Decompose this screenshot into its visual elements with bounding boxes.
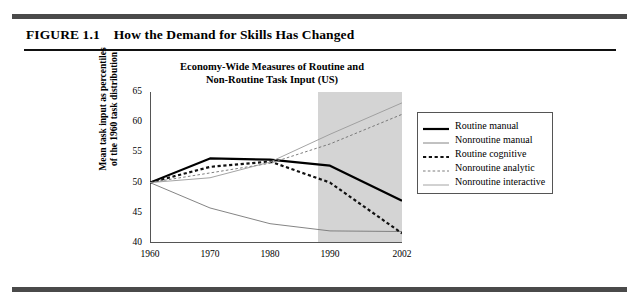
x-tick-label: 2002 [385, 249, 419, 259]
y-tick-label: 50 [118, 177, 142, 187]
legend-item: Routine manual [423, 118, 545, 132]
legend-swatch-icon [423, 176, 449, 186]
chart-title-line-2: Non-Routine Task Input (US) [122, 73, 422, 86]
legend-label: Routine manual [455, 120, 519, 131]
legend-swatch-icon [423, 148, 449, 158]
legend-swatch-icon [423, 134, 449, 144]
legend-label: Nonroutine manual [455, 134, 532, 145]
figure-header: FIGURE 1.1How the Demand for Skills Has … [26, 27, 354, 43]
y-tick-label: 45 [118, 207, 142, 217]
y-tick-label: 65 [118, 86, 142, 96]
line-chart-plot [150, 92, 402, 243]
figure-top-rule [12, 14, 627, 19]
y-tick-label: 55 [118, 146, 142, 156]
legend-label: Nonroutine interactive [455, 176, 545, 187]
chart-title-line-1: Economy-Wide Measures of Routine and [122, 60, 422, 73]
y-tick-label: 60 [118, 116, 142, 126]
chart-title: Economy-Wide Measures of Routine and Non… [122, 60, 422, 86]
y-axis-label-line-2: of the 1960 task distribution [109, 34, 120, 184]
legend-label: Routine cognitive [455, 148, 526, 159]
legend-item: Routine cognitive [423, 146, 545, 160]
y-axis-label: Mean task input as percentiles of the 19… [98, 34, 120, 184]
legend-item: Nonroutine interactive [423, 174, 545, 188]
x-tick-label: 1970 [193, 249, 227, 259]
projection-shading [318, 92, 402, 243]
legend-swatch-icon [423, 162, 449, 172]
figure-caption: How the Demand for Skills Has Changed [114, 27, 354, 42]
legend-swatch-icon [423, 120, 449, 130]
figure-container: FIGURE 1.1How the Demand for Skills Has … [12, 14, 627, 292]
legend-item: Nonroutine manual [423, 132, 545, 146]
plot-wrapper: 404550556065 19601970198019902002 [150, 92, 402, 243]
x-tick-label: 1990 [313, 249, 347, 259]
y-axis-label-line-1: Mean task input as percentiles [98, 34, 109, 184]
legend-label: Nonroutine analytic [455, 162, 535, 173]
x-tick-label: 1960 [133, 249, 167, 259]
figure-bottom-rule [12, 287, 627, 292]
figure-number: FIGURE 1.1 [26, 27, 100, 42]
x-tick-label: 1980 [253, 249, 287, 259]
y-tick-label: 40 [118, 237, 142, 247]
chart-legend: Routine manualNonroutine manualRoutine c… [417, 112, 553, 194]
legend-item: Nonroutine analytic [423, 160, 545, 174]
chart-area: Economy-Wide Measures of Routine and Non… [82, 60, 612, 285]
